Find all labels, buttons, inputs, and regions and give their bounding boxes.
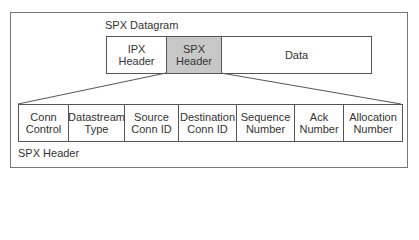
destination-conn-id-cell: Destination Conn ID [179, 105, 237, 141]
datastream-type-cell: Datastream Type [69, 105, 125, 141]
spx-header-row: Conn Control Datastream Type Source Conn… [18, 104, 403, 142]
conn-control-cell: Conn Control [19, 105, 69, 141]
spx-header-label: SPX Header [18, 147, 79, 159]
allocation-number-cell: Allocation Number [344, 105, 402, 141]
source-conn-id-cell: Source Conn ID [125, 105, 179, 141]
left-expansion-line [18, 73, 166, 104]
right-expansion-line [221, 73, 401, 104]
ack-number-cell: Ack Number [295, 105, 344, 141]
sequence-number-cell: Sequence Number [237, 105, 295, 141]
